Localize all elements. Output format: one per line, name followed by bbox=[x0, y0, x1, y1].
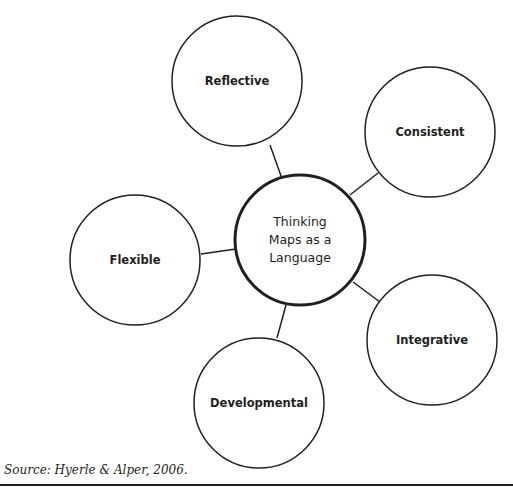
node-label-reflective: Reflective bbox=[205, 73, 270, 90]
node-label-flexible: Flexible bbox=[110, 252, 161, 269]
source-caption: Source: Hyerle & Alper, 2006. bbox=[4, 463, 188, 477]
node-label-consistent: Consistent bbox=[395, 124, 464, 141]
connector-developmental bbox=[277, 305, 286, 338]
connector-consistent bbox=[350, 173, 378, 195]
center-node-label: Thinking Maps as a Language bbox=[269, 213, 332, 267]
node-label-developmental: Developmental bbox=[210, 395, 308, 412]
connector-reflective bbox=[270, 145, 281, 176]
bottom-rule bbox=[0, 484, 513, 486]
connector-integrative bbox=[353, 282, 380, 302]
node-label-integrative: Integrative bbox=[396, 332, 468, 349]
connector-flexible bbox=[201, 249, 236, 254]
